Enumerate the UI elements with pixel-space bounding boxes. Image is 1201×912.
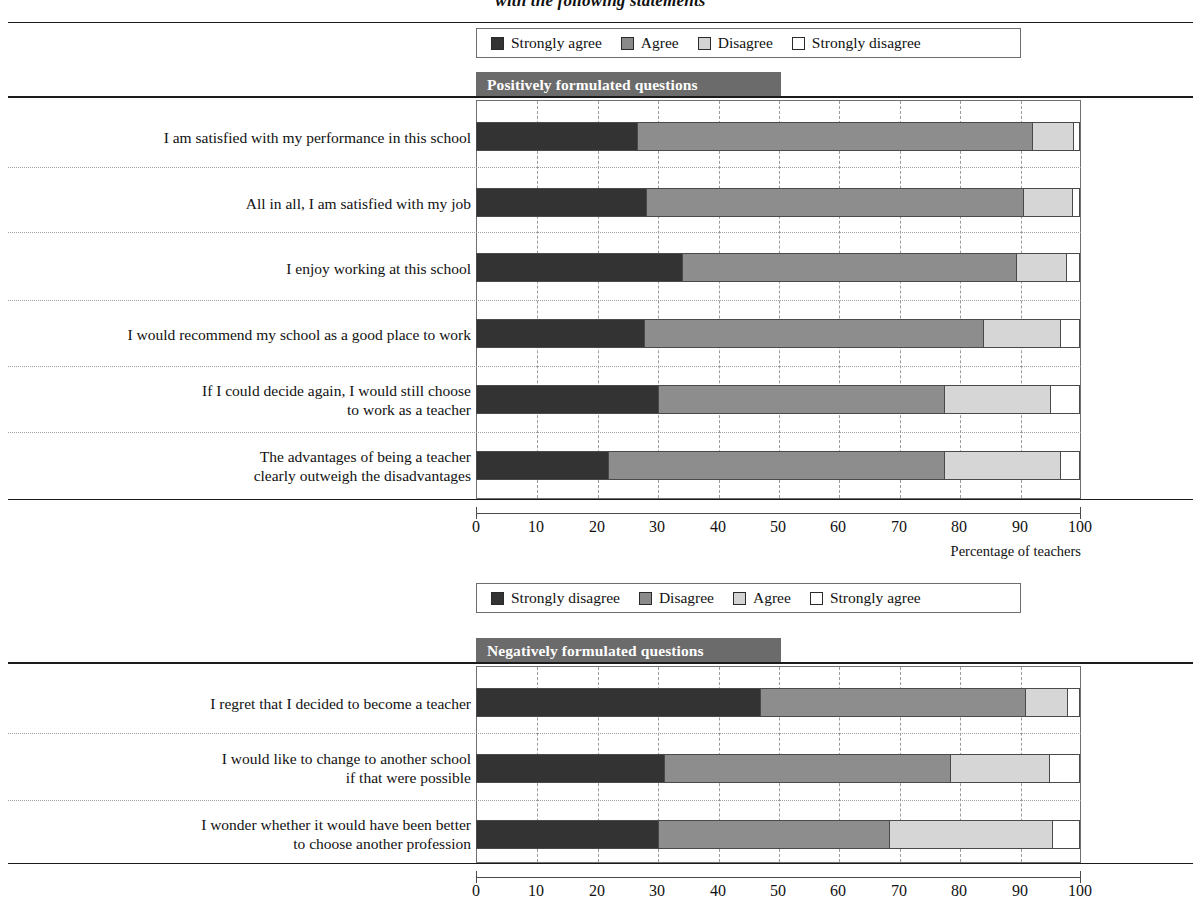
legend-item-agree: Agree [733, 589, 791, 607]
legend-label: Strongly disagree [812, 34, 921, 52]
x-tick-label: 10 [516, 518, 556, 536]
legend-label: Strongly agree [830, 589, 921, 607]
category-label: All in all, I am satisfied with my job [71, 194, 471, 213]
panel1-header-rule [8, 96, 1193, 98]
stacked-bar-row [476, 253, 1080, 282]
segment-strongly-disagree [1072, 189, 1079, 216]
panel1-x-axis [476, 513, 1081, 514]
stacked-bar-row [476, 188, 1080, 217]
segment-disagree [1032, 123, 1073, 150]
medium-gray-swatch-icon [621, 37, 634, 50]
legend-item-strongly-disagree: Strongly disagree [491, 589, 620, 607]
panel2-header-rule [8, 662, 1193, 664]
legend-item-strongly-agree: Strongly agree [810, 589, 921, 607]
segment-disagree [1016, 254, 1066, 281]
segment-strongly-agree [1052, 821, 1079, 848]
figure-root: with the following statements Strongly a… [0, 0, 1201, 912]
segment-strongly-agree [477, 452, 608, 479]
stacked-bar-row [476, 385, 1080, 414]
segment-agree [644, 320, 982, 347]
stacked-bar-row [476, 820, 1080, 849]
segment-strongly-agree [477, 386, 658, 413]
panel1-row-separator [8, 232, 1081, 233]
panel2-x-axis [476, 877, 1081, 878]
category-label: I regret that I decided to become a teac… [71, 694, 471, 713]
x-tick-label: 0 [456, 518, 496, 536]
x-tick-label: 20 [577, 882, 617, 900]
segment-disagree [1023, 189, 1072, 216]
segment-disagree [658, 821, 890, 848]
segment-strongly-agree [1067, 689, 1079, 716]
panel1-row-separator [8, 167, 1081, 168]
legend-item-disagree: Disagree [698, 34, 773, 52]
x-tick-label: 70 [879, 518, 919, 536]
panel2-row-separator [8, 733, 1081, 734]
panel2-bottom-rule [8, 863, 1193, 864]
segment-strongly-agree [477, 123, 637, 150]
segment-strongly-disagree [1073, 123, 1079, 150]
segment-agree [682, 254, 1017, 281]
legend-label: Agree [641, 34, 679, 52]
legend-item-agree: Agree [621, 34, 679, 52]
segment-strongly-disagree [1060, 320, 1079, 347]
segment-strongly-disagree [477, 755, 664, 782]
segment-disagree [944, 452, 1061, 479]
x-tick-label: 60 [818, 518, 858, 536]
white-swatch-icon [810, 592, 823, 605]
x-tick-label: 30 [637, 882, 677, 900]
stacked-bar-row [476, 688, 1080, 717]
dark-gray-swatch-icon [491, 592, 504, 605]
segment-agree [646, 189, 1023, 216]
x-tick-label: 60 [818, 882, 858, 900]
light-gray-swatch-icon [698, 37, 711, 50]
x-tick-label: 40 [698, 518, 738, 536]
segment-agree [950, 755, 1049, 782]
category-label: The advantages of being a teacher clearl… [71, 447, 471, 485]
x-tick-label: 0 [456, 882, 496, 900]
x-axis-title: Percentage of teachers [881, 543, 1081, 560]
x-tick-label: 50 [758, 882, 798, 900]
segment-strongly-disagree [477, 821, 658, 848]
white-swatch-icon [792, 37, 805, 50]
segment-strongly-agree [1049, 755, 1079, 782]
segment-agree [1025, 689, 1067, 716]
legend-negative: Strongly disagree Disagree Agree Strongl… [476, 583, 1021, 613]
figure-title: with the following statements [0, 0, 1201, 11]
x-tick-label: 50 [758, 518, 798, 536]
light-gray-swatch-icon [733, 592, 746, 605]
panel2-row-separator [8, 800, 1081, 801]
segment-disagree [944, 386, 1051, 413]
panel2-banner: Negatively formulated questions [476, 638, 781, 663]
segment-disagree [664, 755, 950, 782]
x-tick-label: 100 [1060, 882, 1100, 900]
panel1-row-separator [8, 366, 1081, 367]
x-tick-label: 10 [516, 882, 556, 900]
x-tick-label: 90 [1000, 882, 1040, 900]
segment-agree [637, 123, 1032, 150]
category-label: I enjoy working at this school [71, 259, 471, 278]
category-label: I am satisfied with my performance in th… [71, 128, 471, 147]
panel1-top-rule [8, 22, 1193, 23]
legend-label: Strongly agree [511, 34, 602, 52]
stacked-bar-row [476, 319, 1080, 348]
segment-strongly-disagree [1066, 254, 1079, 281]
segment-agree [658, 386, 944, 413]
stacked-bar-row [476, 122, 1080, 151]
legend-label: Agree [753, 589, 791, 607]
x-tick-label: 90 [1000, 518, 1040, 536]
legend-item-strongly-disagree: Strongly disagree [792, 34, 921, 52]
legend-item-disagree: Disagree [639, 589, 714, 607]
x-tick-label: 80 [939, 518, 979, 536]
legend-label: Disagree [718, 34, 773, 52]
legend-label: Strongly disagree [511, 589, 620, 607]
segment-disagree [760, 689, 1025, 716]
segment-strongly-disagree [1060, 452, 1079, 479]
x-tick-label: 20 [577, 518, 617, 536]
x-tick-label: 80 [939, 882, 979, 900]
segment-strongly-disagree [477, 689, 760, 716]
segment-strongly-agree [477, 189, 646, 216]
x-tick-label: 70 [879, 882, 919, 900]
x-tick-label: 40 [698, 882, 738, 900]
segment-agree [889, 821, 1052, 848]
legend-item-strongly-agree: Strongly agree [491, 34, 602, 52]
